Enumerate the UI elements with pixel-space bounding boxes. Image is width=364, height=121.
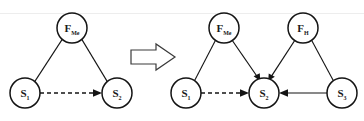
edge-fme-s1: [35, 39, 63, 81]
edge-fme-s2: [82, 39, 108, 81]
diagram-figure: FMe S1 S2: [0, 0, 364, 121]
diagram-canvas: FMe S1 S2: [0, 0, 364, 121]
edge-fh-s3: [312, 40, 334, 80]
node-f-me: [57, 13, 87, 43]
node-f-me: [209, 13, 239, 43]
edge-fme-s1: [195, 40, 216, 80]
implies-arrow: [131, 44, 175, 70]
arrowhead-s1-s2: [240, 89, 249, 97]
arrowhead-s3-s2: [279, 89, 288, 97]
edge-fme-s2: [232, 41, 256, 77]
edge-fh-s2: [272, 41, 295, 77]
after-graph: FMe FH S1 S2 S3: [171, 13, 357, 108]
arrowhead-s1-s2: [93, 89, 102, 97]
before-graph: FMe S1 S2: [10, 13, 132, 108]
